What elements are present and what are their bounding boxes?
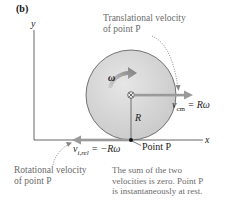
vcm-equation: vcm = Rω [172, 99, 210, 113]
radius-label: R [135, 112, 141, 123]
x-axis-label: x [205, 134, 209, 145]
summary-caption: The sum of the two velocities is zero. P… [112, 165, 203, 197]
panel-label: (b) [16, 3, 28, 14]
rotational-callout-line [53, 144, 69, 165]
point-p-label: Point P [142, 141, 171, 152]
translational-callout: Translational velocity of point P [103, 13, 186, 35]
point-p-leader [132, 141, 141, 146]
vrel-equation: vi,rel = −Rω [73, 143, 120, 157]
center-of-mass-icon [128, 92, 135, 99]
translational-callout-arrowhead-icon [176, 85, 181, 91]
omega-label: ω [108, 72, 115, 83]
y-axis-label: y [31, 18, 35, 29]
rotational-callout: Rotational velocity of point P [14, 165, 87, 187]
rotational-callout-arrowhead-icon [66, 142, 72, 147]
